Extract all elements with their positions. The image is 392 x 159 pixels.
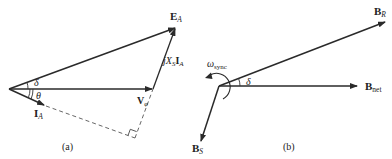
caption-a: (a) (62, 141, 73, 153)
ia-extension-dashed (46, 106, 135, 138)
label-delta-a: δ (34, 77, 39, 88)
label-jxsia: jXSIA (161, 55, 184, 68)
theta-arc-2 (31, 89, 33, 99)
caption-b: (b) (283, 141, 295, 153)
label-omega-sync: ωsync (207, 58, 227, 71)
label-ia: IA (34, 107, 43, 121)
theta-arc-1 (28, 89, 30, 98)
label-theta: θ (36, 90, 41, 101)
delta-arc (27, 83, 28, 90)
label-br: BR (374, 5, 386, 19)
diagram-a: EA jXSIA Vφ IA δ θ (a) (9, 10, 184, 153)
omega-arrowhead (205, 73, 213, 80)
bs-vector-arrow (201, 86, 219, 141)
label-bs: BS (192, 142, 203, 156)
label-delta-b: δ (246, 76, 251, 87)
br-vector-arrow (219, 22, 385, 86)
diagram-b: BR Bnet BS ωsync δ (b) (192, 5, 386, 156)
delta-arc-b (239, 79, 240, 87)
label-bnet: Bnet (365, 80, 382, 94)
right-angle-marker (128, 129, 137, 135)
label-vphi: Vφ (137, 95, 148, 107)
figure-svg: EA jXSIA Vφ IA δ θ (a) BR Bnet BS ωsync … (0, 0, 392, 159)
phasor-diagram-figure: EA jXSIA Vφ IA δ θ (a) BR Bnet BS ωsync … (0, 0, 392, 159)
label-ea: EA (170, 10, 182, 24)
